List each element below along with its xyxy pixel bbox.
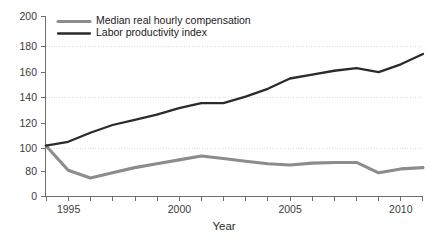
y-tick-label-80: 80 xyxy=(25,165,37,177)
legend: Median real hourly compensation Labor pr… xyxy=(58,14,251,38)
series-line-labor-productivity-index xyxy=(46,54,423,146)
y-tick-label-0: 0 xyxy=(31,190,37,202)
x-tick-label-2010: 2010 xyxy=(389,203,413,215)
y-tick-label-160: 160 xyxy=(19,66,37,78)
y-tick-label-120: 120 xyxy=(19,117,37,129)
y-tick-label-100: 100 xyxy=(19,142,37,154)
y-axis: 200 180 160 140 120 100 80 0 xyxy=(19,10,45,202)
y-tick-label-200: 200 xyxy=(19,10,37,22)
chart-canvas: 200 180 160 140 120 100 80 0 xyxy=(0,0,435,241)
legend-label-labor-productivity-index: Labor productivity index xyxy=(96,26,208,38)
gridlines xyxy=(46,47,423,149)
y-tick-label-140: 140 xyxy=(19,91,37,103)
x-axis-title: Year xyxy=(212,220,235,232)
x-axis: 1995 2000 2005 2010 Year xyxy=(45,197,423,233)
line-chart: 200 180 160 140 120 100 80 0 xyxy=(0,0,435,241)
x-tick-label-1995: 1995 xyxy=(57,203,81,215)
series-group xyxy=(46,54,423,178)
series-line-median-real-hourly-compensation xyxy=(46,146,423,178)
y-tick-label-180: 180 xyxy=(19,40,37,52)
x-tick-label-2005: 2005 xyxy=(278,203,302,215)
x-tick-label-2000: 2000 xyxy=(168,203,192,215)
legend-label-median-real-hourly-compensation: Median real hourly compensation xyxy=(96,14,251,26)
